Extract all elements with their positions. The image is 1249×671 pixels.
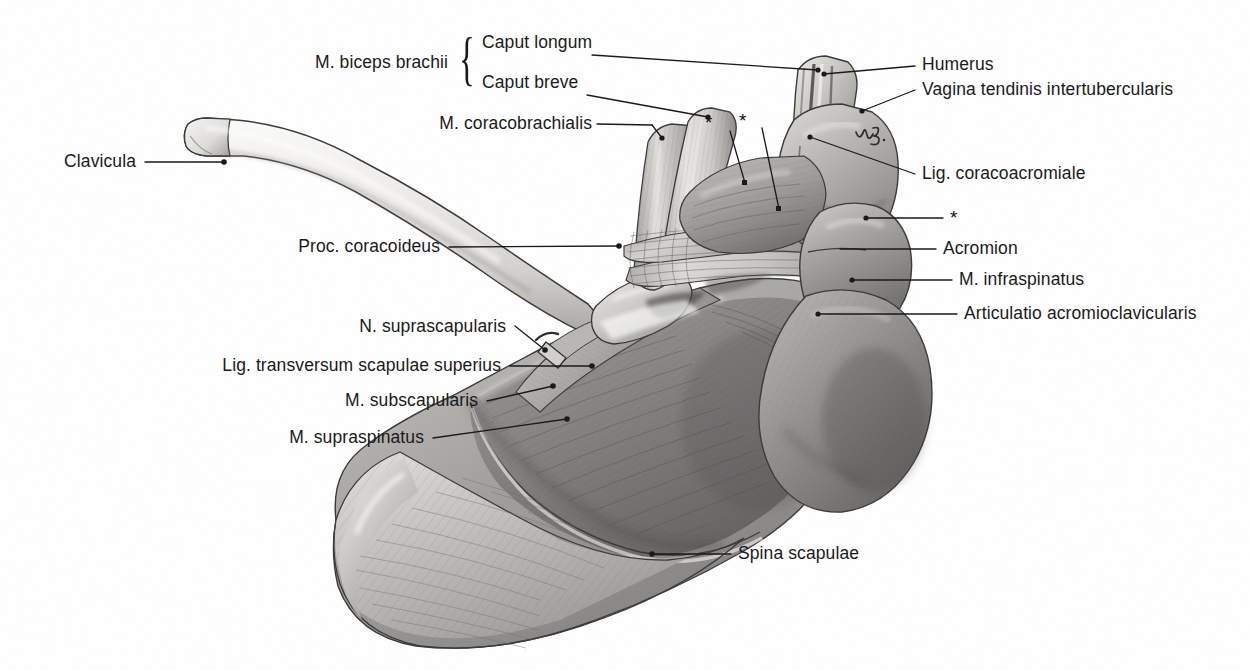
marker-asterisk-1: * (705, 117, 712, 129)
biceps-group-brace: { (459, 28, 475, 88)
anatomy-plate: { M. biceps brachii Caput longum Caput b… (0, 0, 1249, 671)
label-caput-breve: Caput breve (482, 72, 578, 92)
label-m-coracobrachialis: M. coracobrachialis (392, 113, 592, 133)
label-lig-coracoacromiale: Lig. coracoacromiale (922, 163, 1085, 183)
label-acromion: Acromion (943, 238, 1018, 258)
label-m-subscapularis: M. subscapularis (338, 390, 478, 410)
label-m-biceps-brachii: M. biceps brachii (288, 52, 448, 72)
label-m-supraspinatus: M. supraspinatus (280, 427, 424, 447)
label-proc-coracoideus: Proc. coracoideus (290, 236, 440, 256)
label-articulatio-acromioclavicularis: Articulatio acromioclavicularis (964, 303, 1197, 323)
label-asterisk-right: * (950, 212, 957, 224)
label-clavicula: Clavicula (56, 151, 136, 171)
label-spina-scapulae: Spina scapulae (738, 543, 859, 563)
label-n-suprascapularis: N. suprascapularis (356, 316, 506, 336)
anatomy-illustration (0, 0, 1249, 671)
label-vagina-tendinis-intertubercularis: Vagina tendinis intertubercularis (922, 79, 1173, 99)
label-humerus: Humerus (922, 54, 994, 74)
label-lig-transversum-scapulae-superius: Lig. transversum scapulae superius (216, 355, 501, 375)
label-m-infraspinatus: M. infraspinatus (959, 269, 1084, 289)
marker-asterisk-2: * (739, 115, 746, 127)
label-caput-longum: Caput longum (482, 32, 592, 52)
